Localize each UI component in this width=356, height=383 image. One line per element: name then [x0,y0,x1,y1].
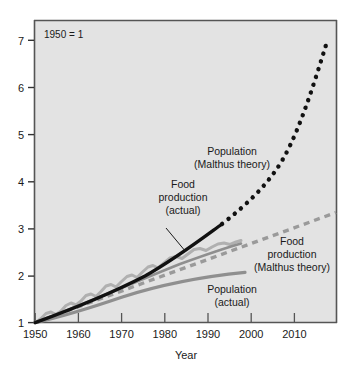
annotation-line: production [267,248,316,260]
annotation-line: Food [280,235,304,247]
chart-page: 7 6 5 4 3 2 1 1950 1960 1970 1980 1990 2… [0,0,356,383]
x-tick-label: 2010 [282,328,306,340]
x-tick-label: 1950 [23,328,47,340]
y-tick-label: 2 [18,270,24,282]
x-axis-tick-labels: 1950 1960 1970 1980 1990 2000 2010 [23,328,307,340]
y-tick-label: 1 [18,317,24,329]
y-tick-label: 7 [18,35,24,47]
annotation-population-actual: Population (actual) [207,283,257,308]
x-tick-label: 2000 [239,328,263,340]
annotation-line: production [158,191,207,203]
plot-background [34,20,337,323]
malthus-chart: 7 6 5 4 3 2 1 1950 1960 1970 1980 1990 2… [0,0,356,383]
annotation-line: (actual) [165,204,200,216]
x-tick-label: 1980 [153,328,177,340]
x-tick-label: 1960 [66,328,90,340]
annotation-line: (actual) [214,296,249,308]
annotation-line: Population [207,283,257,295]
y-axis-ticks [28,40,34,322]
normalization-note: 1950 = 1 [44,29,84,40]
y-tick-label: 3 [18,223,24,235]
x-axis-title: Year [175,349,198,361]
annotation-line: (Malthus theory) [194,158,270,170]
x-tick-label: 1990 [196,328,220,340]
x-tick-label: 1970 [109,328,133,340]
y-tick-label: 5 [18,129,24,141]
y-tick-label: 4 [18,176,24,188]
y-tick-label: 6 [18,82,24,94]
annotation-line: (Malthus theory) [254,261,330,273]
annotation-line: Population [207,145,257,157]
annotation-line: Food [171,178,195,190]
y-axis-tick-labels: 7 6 5 4 3 2 1 [18,35,24,329]
